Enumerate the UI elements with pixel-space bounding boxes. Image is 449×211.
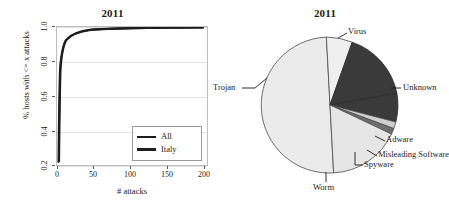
pie-chart-panel: 2011 [225,0,449,211]
y-tick-label: 1.0 [40,16,49,38]
legend-label-all: All [161,132,172,141]
pie-label-spyware: Spyware [364,160,394,169]
y-tick-mark [52,165,55,166]
line-chart-panel: 2011 % hosts with <= x attacks 1.0 0.8 0… [0,0,225,211]
x-tick-label: 100 [118,170,142,179]
x-tick-label: 150 [155,170,179,179]
x-tick-mark [93,166,94,169]
y-axis-label: % hosts with <= x attacks [21,20,31,130]
y-tick-label: 0.6 [40,86,49,108]
x-tick-mark [204,166,205,169]
pie-label-virus: Virus [348,27,366,36]
y-tick-mark [52,131,55,132]
leader-line-virus [338,33,347,38]
pie-label-trojan: Trojan [213,83,235,92]
gridline [57,166,207,167]
pie-label-worm: Worm [313,183,334,192]
line-chart-title: 2011 [0,7,225,19]
legend-label-italy: Italy [161,145,177,154]
y-tick-mark [52,26,55,27]
line-chart-legend[interactable]: All Italy [132,126,202,161]
x-tick-label: 200 [192,170,216,179]
pie-wrap: Trojan Virus Unknown Adware Misleading S… [225,0,449,211]
pie-slice-trojan[interactable] [261,37,333,173]
pie-label-adware: Adware [386,135,413,144]
x-tick-mark [57,166,58,169]
x-tick-mark [130,166,131,169]
x-tick-label: 50 [81,170,105,179]
x-tick-mark [167,166,168,169]
legend-swatch-all-icon [137,136,156,138]
legend-item-italy[interactable]: Italy [137,143,197,156]
pie-label-unknown: Unknown [403,83,437,92]
y-tick-mark [52,61,55,62]
y-tick-label: 0.8 [40,51,49,73]
pie-svg [225,0,449,211]
pie-label-misleading-software: Misleading Software [378,150,449,159]
x-axis-label: # attacks [56,186,208,196]
legend-swatch-italy-icon [137,148,156,151]
legend-item-all[interactable]: All [137,130,197,143]
y-tick-mark [52,96,55,97]
y-tick-label: 0.4 [40,121,49,143]
x-tick-label: 0 [45,170,69,179]
figure-container: 2011 % hosts with <= x attacks 1.0 0.8 0… [0,0,449,211]
